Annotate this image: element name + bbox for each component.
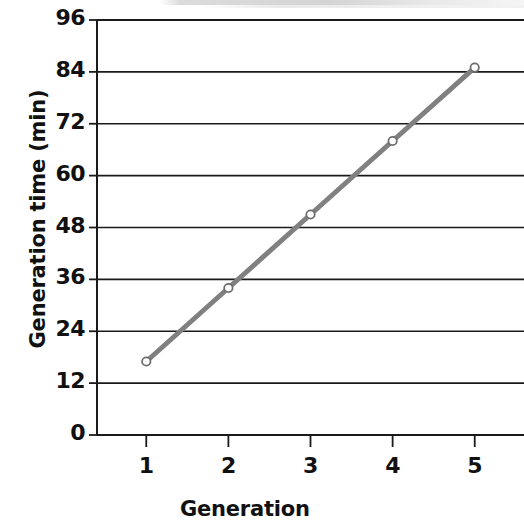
y-tick-label: 84 xyxy=(37,57,85,82)
x-tick-label: 2 xyxy=(213,453,243,478)
y-tick-label: 0 xyxy=(37,420,85,445)
data-point-marker xyxy=(388,137,396,145)
x-axis-title: Generation xyxy=(0,497,490,521)
data-series-group xyxy=(142,63,479,365)
y-axis-title: Generation time (min) xyxy=(26,89,50,349)
chart-screenshot: 96847260483624120 12345 Generation time … xyxy=(0,0,524,526)
data-point-marker xyxy=(306,210,314,218)
y-tick-label: 12 xyxy=(37,368,85,393)
data-point-marker xyxy=(142,357,150,365)
gridlines-group xyxy=(97,20,524,383)
data-point-marker xyxy=(471,63,479,71)
data-point-marker xyxy=(224,284,232,292)
x-tick-label: 1 xyxy=(131,453,161,478)
y-tick-label: 96 xyxy=(37,5,85,30)
x-tick-label: 3 xyxy=(296,453,326,478)
x-tick-label: 5 xyxy=(460,453,490,478)
x-tick-label: 4 xyxy=(378,453,408,478)
